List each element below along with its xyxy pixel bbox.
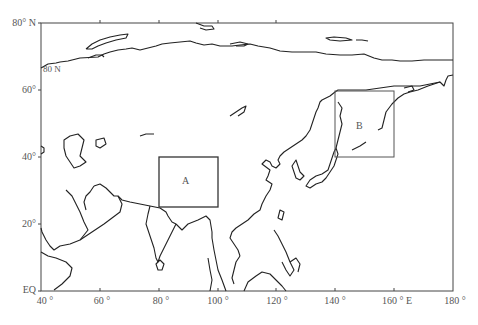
y-tick-80: 80° N — [0, 17, 36, 28]
region-label-b: B — [356, 120, 363, 131]
x-tick-160: 160 ° E — [382, 295, 412, 306]
x-tick-180: 180 ° — [444, 295, 466, 306]
region-box-b — [335, 91, 394, 157]
map-canvas — [0, 0, 478, 325]
y-tick-eq: EQ — [0, 284, 36, 295]
y-tick-40: 40° — [0, 151, 36, 162]
region-label-a: A — [182, 175, 189, 186]
axis-ticks — [38, 20, 394, 291]
x-tick-140: 140 ° — [324, 295, 346, 306]
x-tick-100: 100 ° — [207, 295, 229, 306]
x-tick-80: 80 ° — [153, 295, 170, 306]
inset-latitude-label: 80 N — [43, 64, 61, 74]
x-tick-120: 120 ° — [266, 295, 288, 306]
x-tick-40: 40 ° — [37, 295, 54, 306]
x-tick-60: 60 ° — [94, 295, 111, 306]
y-tick-20: 20° — [0, 218, 36, 229]
y-tick-60: 60° — [0, 84, 36, 95]
